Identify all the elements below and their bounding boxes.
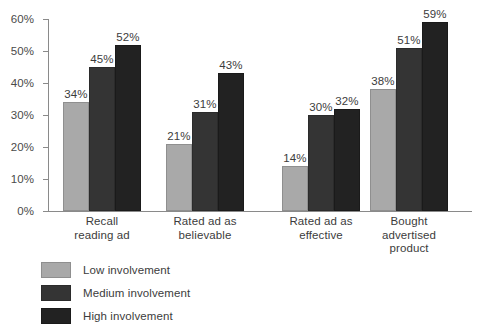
legend-label: High involvement bbox=[83, 310, 173, 322]
y-tick-label: 10% bbox=[11, 173, 34, 185]
bar: 30% bbox=[308, 115, 334, 211]
bar-value-label: 52% bbox=[116, 31, 139, 43]
y-tick-30: 30% bbox=[43, 115, 49, 116]
legend-swatch bbox=[41, 285, 71, 301]
bar-value-label: 43% bbox=[219, 59, 242, 71]
legend: Low involvementMedium involvementHigh in… bbox=[41, 260, 190, 329]
legend-label: Medium involvement bbox=[83, 287, 190, 299]
y-tick-10: 10% bbox=[43, 179, 49, 180]
bar-value-label: 38% bbox=[371, 75, 394, 87]
bar: 43% bbox=[218, 73, 244, 211]
y-tick-40: 40% bbox=[43, 83, 49, 84]
y-tick-50: 50% bbox=[43, 51, 49, 52]
bar: 45% bbox=[89, 67, 115, 211]
y-tick-label: 50% bbox=[11, 45, 34, 57]
bar: 14% bbox=[282, 166, 308, 211]
x-axis-line bbox=[48, 211, 472, 212]
bar-value-label: 59% bbox=[423, 8, 446, 20]
y-tick-label: 0% bbox=[17, 205, 34, 217]
legend-label: Low involvement bbox=[83, 264, 170, 276]
bar-value-label: 31% bbox=[193, 98, 216, 110]
bar-value-label: 21% bbox=[167, 130, 190, 142]
bar-value-label: 32% bbox=[335, 95, 358, 107]
y-tick-label: 30% bbox=[11, 109, 34, 121]
bar-value-label: 14% bbox=[283, 152, 306, 164]
bar: 51% bbox=[396, 48, 422, 211]
bar: 38% bbox=[370, 89, 396, 211]
legend-item: Medium involvement bbox=[41, 283, 190, 303]
y-tick-label: 60% bbox=[11, 13, 34, 25]
legend-item: High involvement bbox=[41, 306, 190, 326]
bar-group: 38%51%59% bbox=[370, 19, 448, 211]
y-tick-20: 20% bbox=[43, 147, 49, 148]
y-tick-label: 20% bbox=[11, 141, 34, 153]
y-tick-label: 40% bbox=[11, 77, 34, 89]
y-tick-60: 60% bbox=[43, 19, 49, 20]
bar-value-label: 45% bbox=[90, 53, 113, 65]
y-tick-0: 0% bbox=[43, 211, 49, 212]
bar-value-label: 34% bbox=[64, 88, 87, 100]
plot-area: 0%10%20%30%40%50%60% 34%45%52%21%31%43%1… bbox=[48, 19, 472, 211]
bar: 21% bbox=[166, 144, 192, 211]
bar: 59% bbox=[422, 22, 448, 211]
bar-value-label: 30% bbox=[309, 101, 332, 113]
bar: 32% bbox=[334, 109, 360, 211]
legend-swatch bbox=[41, 262, 71, 278]
bar-chart: 0%10%20%30%40%50%60% 34%45%52%21%31%43%1… bbox=[0, 0, 479, 335]
bar: 34% bbox=[63, 102, 89, 211]
bar-value-label: 51% bbox=[397, 34, 420, 46]
bar-group: 14%30%32% bbox=[282, 19, 360, 211]
bar-group: 21%31%43% bbox=[166, 19, 244, 211]
bar-group: 34%45%52% bbox=[63, 19, 141, 211]
category-label: Bought advertised product bbox=[340, 215, 478, 256]
legend-swatch bbox=[41, 308, 71, 324]
bar: 52% bbox=[115, 45, 141, 211]
legend-item: Low involvement bbox=[41, 260, 190, 280]
bar: 31% bbox=[192, 112, 218, 211]
